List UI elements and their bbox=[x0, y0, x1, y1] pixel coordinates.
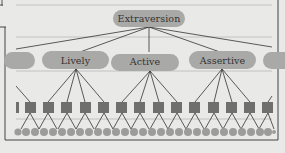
facet-nodes bbox=[4, 51, 285, 71]
habit-connectors bbox=[21, 113, 274, 129]
habit-squares bbox=[16, 102, 273, 113]
response-circles bbox=[14, 128, 276, 136]
top-connectors bbox=[16, 27, 272, 52]
facet-node-lively bbox=[42, 51, 109, 69]
facet-node-partial-right bbox=[263, 52, 285, 69]
facet-node-partial-left bbox=[4, 52, 35, 69]
facet-connectors bbox=[16, 69, 272, 102]
trait-node-extraversion bbox=[113, 10, 185, 27]
facet-node-active bbox=[111, 54, 179, 71]
diagram-canvas bbox=[0, 0, 285, 153]
trait-hierarchy-diagram: Extraversion Lively Active Assertive bbox=[0, 0, 285, 153]
facet-node-assertive bbox=[189, 51, 256, 69]
